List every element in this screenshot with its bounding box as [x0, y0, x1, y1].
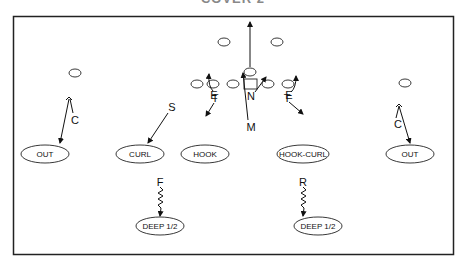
defender-end-left: E — [210, 89, 217, 101]
zone-label-curl: CURL — [129, 150, 151, 159]
defender-rover: R — [299, 176, 307, 188]
zone-label-deep-right: DEEP 1/2 — [301, 222, 337, 231]
zone-label-out-right: OUT — [402, 150, 419, 159]
defender-strong-safety: S — [168, 101, 175, 113]
defender-mike: M — [246, 121, 255, 133]
defender-free-safety: F — [157, 176, 164, 188]
zone-label-deep-left: DEEP 1/2 — [143, 222, 179, 231]
defender-end-right: E — [285, 89, 292, 101]
offense — [69, 38, 411, 89]
zone-label-hook: HOOK — [193, 150, 217, 159]
defender-corner-right: C — [394, 118, 402, 130]
defender-corner-left: C — [71, 114, 79, 126]
diagram-frame — [14, 17, 454, 255]
play-diagram: OUT CURL HOOK HOOK-CURL OUT DEEP 1/2 DEE… — [0, 0, 466, 268]
defender-nose: N — [247, 90, 255, 102]
zone-label-hook-curl: HOOK-CURL — [279, 150, 328, 159]
zone-label-out-left: OUT — [37, 150, 54, 159]
